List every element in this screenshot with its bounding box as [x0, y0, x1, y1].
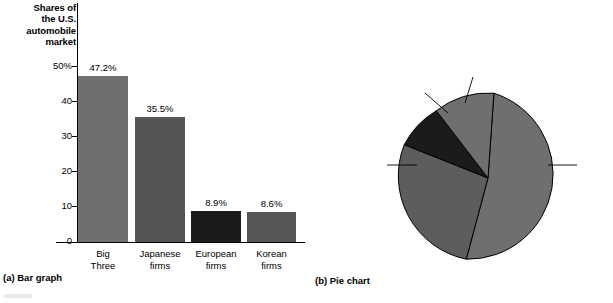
y-tick-label-50: 50%	[12, 61, 72, 71]
y-tick-label-30: 30	[12, 131, 72, 141]
y-tick-mark-30	[72, 136, 77, 137]
y-tick-50: 50%	[0, 61, 72, 71]
caption-bar-graph: (a) Bar graph	[3, 272, 62, 283]
y-tick-mark-10	[72, 206, 77, 207]
bar-category-korean-firms: Korean firms	[256, 248, 287, 271]
y-axis-title-line-1: Shares of	[4, 2, 76, 13]
bar-category-european-firms-line1: European	[195, 248, 236, 259]
y-tick-30: 30	[0, 131, 72, 141]
caption-pie-chart: (b) Pie chart	[315, 275, 370, 286]
y-tick-mark-40	[72, 101, 77, 102]
bar-japanese-firms[interactable]: 35.5% Japanese firms	[135, 117, 185, 242]
y-axis-title-line-4: market	[4, 36, 76, 47]
y-tick-0: 0	[0, 236, 72, 246]
bar-category-big-three-line1: Big	[96, 248, 110, 259]
scan-artifact	[4, 294, 32, 298]
y-tick-label-40: 40	[12, 96, 72, 106]
x-axis-line	[56, 242, 305, 243]
y-tick-label-20: 20	[12, 166, 72, 176]
bar-category-japanese-firms-line1: Japanese	[139, 248, 180, 259]
y-tick-40: 40	[0, 96, 72, 106]
bar-graph-panel: Shares of the U.S. automobile market 50%…	[0, 0, 305, 303]
bar-category-european-firms-line2: firms	[206, 260, 227, 271]
y-tick-10: 10	[0, 201, 72, 211]
bar-value-big-three: 47.2%	[90, 63, 117, 73]
bar-value-european-firms: 8.9%	[205, 198, 227, 208]
y-tick-mark-20	[72, 171, 77, 172]
y-axis-title: Shares of the U.S. automobile market	[4, 2, 76, 48]
bar-category-japanese-firms-line2: firms	[150, 260, 171, 271]
bar-european-firms[interactable]: 8.9% European firms	[191, 211, 241, 242]
bar-category-korean-firms-line2: firms	[261, 260, 282, 271]
bar-category-korean-firms-line1: Korean	[256, 248, 287, 259]
pie-chart-svg	[305, 0, 613, 303]
y-axis-title-line-3: automobile	[4, 25, 76, 36]
bar-korean-firms[interactable]: 8.6% Korean firms	[247, 212, 296, 242]
bar-category-big-three: Big Three	[91, 248, 116, 271]
y-tick-20: 20	[0, 166, 72, 176]
figure-root: Shares of the U.S. automobile market 50%…	[0, 0, 613, 303]
pie-chart-panel: Korean firms 8.6% European firms 8.9% Ja…	[305, 0, 613, 303]
y-tick-label-0: 0	[12, 236, 72, 246]
y-axis-title-line-2: the U.S.	[4, 13, 76, 24]
bar-value-japanese-firms: 35.5%	[147, 104, 174, 114]
bar-value-korean-firms: 8.6%	[261, 199, 283, 209]
y-tick-mark-50	[72, 66, 77, 67]
bar-big-three[interactable]: 47.2% Big Three	[78, 76, 128, 242]
y-tick-label-10: 10	[12, 201, 72, 211]
bar-category-european-firms: European firms	[195, 248, 236, 271]
bar-category-japanese-firms: Japanese firms	[139, 248, 180, 271]
bar-category-big-three-line2: Three	[91, 260, 116, 271]
